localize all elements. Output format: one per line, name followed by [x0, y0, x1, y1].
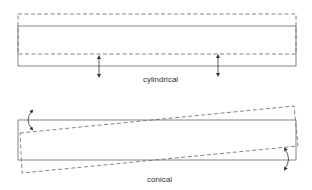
conical-solid-outline: [18, 120, 296, 160]
cylindrical-label: cylindrical: [143, 75, 178, 84]
conical-dashed-outline: [20, 106, 298, 173]
conical-diagram: [18, 106, 298, 173]
cylindrical-dashed-outline: [18, 14, 296, 54]
runout-diagram: [0, 0, 312, 190]
curved-arrow-icon: [285, 149, 289, 169]
cylindrical-solid-outline: [18, 26, 296, 66]
conical-label: conical: [147, 175, 172, 184]
cylindrical-diagram: [18, 14, 296, 76]
